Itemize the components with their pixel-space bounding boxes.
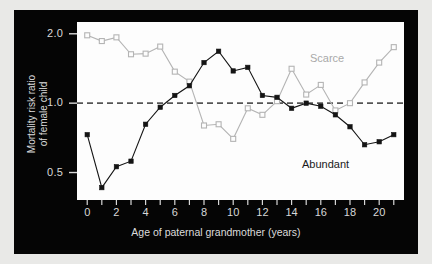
x-tick-label: 14 xyxy=(282,206,302,218)
y-tick-label: 2.0 xyxy=(27,27,63,39)
x-axis-title: Age of paternal grandmother (years) xyxy=(14,226,418,238)
x-tick-label: 6 xyxy=(165,206,185,218)
x-tick-label: 0 xyxy=(77,206,97,218)
x-tick-label: 18 xyxy=(340,206,360,218)
series-label-abundant: Abundant xyxy=(302,158,349,170)
figure-panel: 2.01.00.5 02468101214161820 Mortality ri… xyxy=(14,10,418,254)
y-axis-title: Mortality risk ratio of female child xyxy=(26,44,50,184)
series-label-scarce: Scarce xyxy=(310,52,344,64)
x-tick-label: 20 xyxy=(369,206,389,218)
x-tick-label: 8 xyxy=(194,206,214,218)
x-tick-label: 10 xyxy=(223,206,243,218)
x-tick-label: 4 xyxy=(136,206,156,218)
y-axis-title-line-1: Mortality risk ratio xyxy=(26,44,38,184)
x-tick-label: 16 xyxy=(311,206,331,218)
axis-ticks xyxy=(69,34,394,205)
series-abundant xyxy=(85,49,396,190)
y-axis-title-line-2: of female child xyxy=(38,44,50,184)
x-tick-label: 2 xyxy=(106,206,126,218)
x-tick-label: 12 xyxy=(252,206,272,218)
